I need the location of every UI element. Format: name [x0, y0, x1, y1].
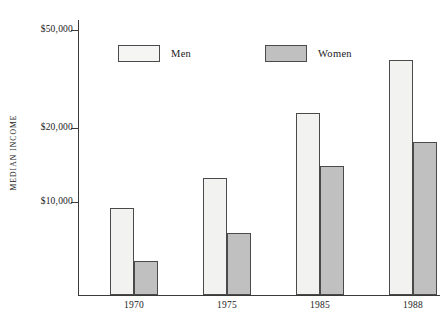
y-axis-tick-label-wrap: $10,000: [0, 196, 73, 207]
legend-label-men: Men: [171, 48, 191, 59]
bar-men-1975: [203, 178, 227, 295]
legend-swatch-women-icon: [265, 45, 307, 62]
bar-men-1970: [110, 208, 134, 295]
bar-women-1975: [227, 233, 251, 295]
bar-men-1988: [389, 60, 413, 295]
x-axis-label-1985: 1985: [290, 300, 350, 310]
legend-swatch-men-icon: [118, 45, 160, 62]
y-axis-tick-label-wrap: $50,000: [0, 24, 73, 35]
bar-women-1985: [320, 166, 344, 295]
legend-item-women: Women: [265, 45, 352, 62]
bar-group: [203, 20, 251, 295]
y-axis-tick-label: $10,000: [41, 196, 73, 206]
legend-item-men: Men: [118, 45, 191, 62]
x-axis-label-1975: 1975: [197, 300, 257, 310]
bar-group: [389, 20, 437, 295]
y-axis-tick-label-wrap: $20,000: [0, 122, 73, 133]
bar-women-1988: [413, 142, 437, 295]
bar-women-1970: [134, 261, 158, 296]
y-axis-tick-label: $50,000: [41, 24, 73, 34]
x-axis-label-1970: 1970: [104, 300, 164, 310]
y-axis-tick-label: $20,000: [41, 122, 73, 132]
bar-men-1985: [296, 113, 320, 295]
legend-label-women: Women: [318, 48, 352, 59]
x-axis-label-1988: 1988: [383, 300, 443, 310]
bar-chart: MEDIAN INCOME $10,000$20,000$50,000 1970…: [0, 0, 448, 323]
